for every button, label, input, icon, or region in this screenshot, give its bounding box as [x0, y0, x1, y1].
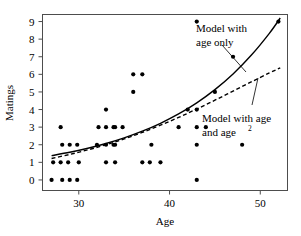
leader-line-age-only	[222, 45, 246, 72]
data-point	[131, 90, 135, 94]
data-point-group	[49, 19, 280, 182]
data-point	[276, 19, 280, 23]
x-tick-label: 50	[255, 197, 267, 209]
y-tick-label: 8	[29, 33, 35, 45]
data-point	[131, 72, 135, 76]
annotation-age-only-line1: Model with	[196, 22, 248, 34]
data-point	[104, 143, 108, 147]
scatter-plot-figure: 0123456789 304050 Age Matings Model with…	[0, 0, 301, 236]
data-point	[60, 143, 64, 147]
data-point	[113, 125, 117, 129]
data-point	[120, 125, 124, 129]
data-point	[75, 143, 79, 147]
y-tick-label: 2	[29, 139, 35, 151]
data-point	[59, 125, 63, 129]
y-tick-label: 7	[29, 51, 35, 63]
plot-canvas: 0123456789 304050 Age Matings Model with…	[0, 0, 301, 236]
data-point	[195, 143, 199, 147]
data-point	[104, 125, 108, 129]
y-tick-label: 5	[29, 86, 35, 98]
x-tick-label: 30	[73, 197, 85, 209]
data-point	[60, 178, 64, 182]
data-point	[140, 72, 144, 76]
y-tick-label: 0	[29, 174, 35, 186]
y-axis-title: Matings	[3, 85, 15, 121]
data-point	[113, 160, 117, 164]
data-point	[177, 125, 181, 129]
data-point	[51, 160, 55, 164]
x-axis-ticks: 304050	[73, 191, 266, 209]
data-point	[96, 125, 100, 129]
annotation-age2-line1: Model with age	[202, 112, 271, 124]
data-point	[77, 160, 81, 164]
data-point	[66, 160, 70, 164]
x-axis-title: Age	[156, 215, 174, 227]
annotation-age-only-line2: age only	[196, 36, 234, 48]
data-point	[195, 178, 199, 182]
data-point	[195, 107, 199, 111]
annotation-age2-superscript: 2	[248, 124, 252, 133]
data-point	[59, 160, 63, 164]
data-point	[140, 160, 144, 164]
y-tick-label: 4	[29, 104, 35, 116]
data-point	[75, 178, 79, 182]
x-tick-label: 40	[164, 197, 176, 209]
data-point	[68, 178, 72, 182]
leader-line-age-and-age-squared	[252, 78, 258, 105]
data-point	[195, 125, 199, 129]
annotation-age2-line2: and age	[202, 126, 236, 138]
data-point	[95, 143, 99, 147]
data-point	[158, 160, 162, 164]
data-point	[213, 90, 217, 94]
y-axis-ticks: 0123456789	[29, 16, 43, 186]
data-point	[148, 160, 152, 164]
data-point	[186, 107, 190, 111]
y-tick-label: 9	[29, 16, 35, 28]
data-point	[149, 143, 153, 147]
y-tick-label: 6	[29, 68, 35, 80]
data-point	[68, 143, 72, 147]
curve-model-age-only	[52, 18, 281, 156]
data-point	[240, 143, 244, 147]
y-tick-label: 3	[29, 121, 35, 133]
y-tick-label: 1	[29, 156, 35, 168]
data-point	[49, 178, 53, 182]
data-point	[113, 143, 117, 147]
data-point	[104, 107, 108, 111]
data-point	[104, 160, 108, 164]
